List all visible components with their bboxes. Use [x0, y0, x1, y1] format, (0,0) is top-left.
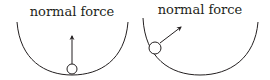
normal-force-arrow-icon [160, 27, 181, 43]
normal-force-label: normal force [30, 4, 115, 19]
ball [149, 42, 161, 54]
normal-force-diagrams: normal force normal force [0, 0, 270, 80]
normal-force-label: normal force [158, 2, 243, 17]
diagram-ball-on-side: normal force [143, 2, 258, 75]
ball [67, 64, 77, 74]
diagram-ball-at-bottom: normal force [17, 4, 128, 75]
